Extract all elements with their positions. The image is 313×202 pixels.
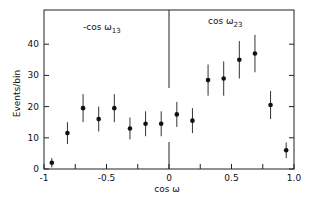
data-point (237, 41, 242, 78)
annotation-left: -cos ω13 (83, 22, 121, 35)
x-axis-label: cos ω (154, 184, 180, 194)
marker (237, 58, 242, 63)
data-point (128, 118, 133, 140)
marker (96, 117, 101, 122)
data-point (268, 91, 273, 119)
y-tick-label: 40 (28, 39, 40, 49)
y-axis-label: Events/bin (12, 70, 22, 117)
data-point (206, 64, 211, 95)
x-tick-label: 0 (166, 173, 172, 183)
marker (206, 78, 211, 83)
marker (50, 160, 55, 165)
data-point (175, 102, 180, 127)
data-point (143, 111, 148, 136)
data-point (284, 142, 289, 158)
marker (128, 126, 133, 131)
data-point (50, 158, 55, 167)
marker (81, 106, 86, 111)
marker (268, 103, 273, 108)
marker (221, 76, 226, 81)
plot-frame (44, 10, 294, 169)
data-point (96, 107, 101, 132)
x-tick-label: -0.5 (98, 173, 116, 183)
y-axis: 010203040 (28, 39, 294, 174)
marker (284, 148, 289, 153)
x-tick-label: 0.5 (224, 173, 238, 183)
axis-labels: cos ωEvents/bin-cos ω13cos ω23 (12, 16, 242, 194)
data-point (65, 122, 70, 144)
chart: -1-0.500.51.0 010203040 cos ωEvents/bin-… (0, 0, 313, 202)
marker (175, 112, 180, 117)
marker (65, 131, 70, 136)
x-axis: -1-0.500.51.0 (40, 164, 302, 183)
data-point (159, 111, 164, 136)
marker (159, 121, 164, 126)
y-tick-label: 0 (33, 164, 39, 174)
data-point (190, 108, 195, 133)
data-point (221, 61, 226, 95)
annotation-right: cos ω23 (208, 16, 242, 29)
y-tick-label: 30 (28, 70, 40, 80)
marker (112, 106, 117, 111)
marker (143, 121, 148, 126)
x-tick-label: 1.0 (287, 173, 302, 183)
data-point (112, 94, 117, 122)
y-tick-label: 10 (28, 133, 40, 143)
marker (190, 118, 195, 123)
x-tick-label: -1 (40, 173, 49, 183)
data-point (253, 35, 258, 72)
y-tick-label: 20 (28, 102, 40, 112)
marker (253, 51, 258, 56)
data-point (81, 94, 86, 122)
